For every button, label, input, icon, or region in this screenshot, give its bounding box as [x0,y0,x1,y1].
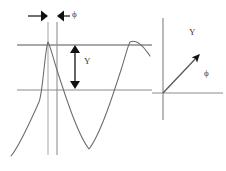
amplitude-arrowhead-up [70,45,80,53]
figure-canvas [0,0,226,171]
amplitude-arrowhead-down [70,81,80,89]
phasor-magnitude-label: Y [189,28,196,37]
phase-span-label: ϕ [72,10,77,19]
amplitude-annotation [70,45,80,89]
figure-root: ϕ Y Y ϕ [0,0,226,171]
phasor-vector [163,55,199,93]
phasor-panel [152,18,223,120]
phase-span-annotation [28,11,70,22]
phasor-angle-label: ϕ [204,69,209,78]
amplitude-label: Y [84,57,91,66]
waveform-panel [11,11,152,157]
phase-span-left-arrowhead [41,11,48,22]
phase-span-right-arrowhead [57,11,64,22]
sinusoid-curve [11,41,150,156]
